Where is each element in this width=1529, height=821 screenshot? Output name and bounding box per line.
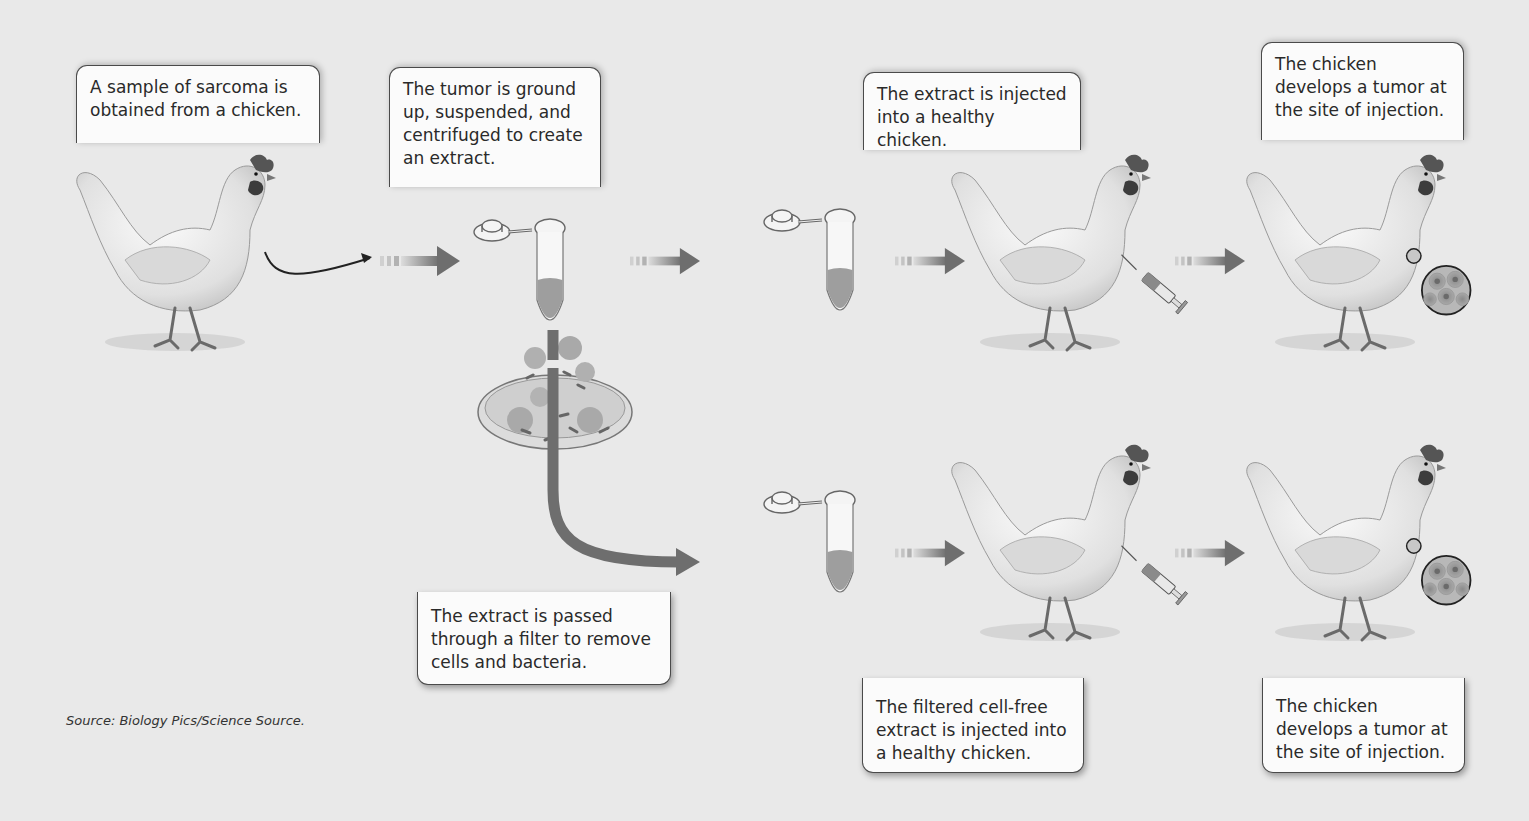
arrow-right-icon: [380, 246, 460, 276]
arrow-right-icon: [895, 540, 965, 566]
callout-text: The chicken develops a tumor at the site…: [1275, 53, 1450, 122]
callout-step-4b: The chicken develops a tumor at the site…: [1262, 678, 1465, 773]
callout-step-1: A sample of sarcoma is obtained from a c…: [76, 65, 320, 143]
callout-step-3a: The extract is injected into a healthy c…: [863, 72, 1081, 150]
source-credit: Source: Biology Pics/Science Source.: [66, 713, 305, 728]
arrow-right-icon: [1175, 540, 1245, 566]
rous-sarcoma-experiment-diagram: A sample of sarcoma is obtained from a c…: [0, 0, 1529, 821]
arrow-right-icon: [676, 548, 700, 576]
injected-chicken-icon: [952, 155, 1151, 351]
microcentrifuge-tube-icon: [764, 491, 855, 592]
microcentrifuge-tube-icon: [764, 209, 855, 310]
tumor-cells-magnifier-icon: [1407, 249, 1471, 315]
arrow-right-icon: [1175, 248, 1245, 274]
tumor-cells-magnifier-icon: [1407, 539, 1471, 605]
injected-chicken-icon: [952, 445, 1151, 641]
callout-step-4a: The chicken develops a tumor at the site…: [1261, 42, 1464, 140]
callout-step-filter: The extract is passed through a filter t…: [417, 592, 671, 685]
callout-text: A sample of sarcoma is obtained from a c…: [90, 76, 306, 122]
callout-text: The extract is passed through a filter t…: [431, 605, 657, 674]
arrow-right-icon: [895, 248, 965, 274]
callout-step-2: The tumor is ground up, suspended, and c…: [389, 67, 601, 187]
microcentrifuge-tube-icon: [474, 219, 565, 320]
callout-step-3b: The filtered cell-free extract is inject…: [862, 678, 1084, 773]
curved-arrow-icon: [265, 252, 370, 274]
source-chicken-icon: [77, 155, 276, 351]
callout-text: The extract is injected into a healthy c…: [877, 83, 1067, 152]
callout-text: The filtered cell-free extract is inject…: [876, 696, 1070, 765]
arrow-right-icon: [630, 248, 700, 274]
callout-text: The tumor is ground up, suspended, and c…: [403, 78, 587, 170]
callout-text: The chicken develops a tumor at the site…: [1276, 695, 1451, 764]
